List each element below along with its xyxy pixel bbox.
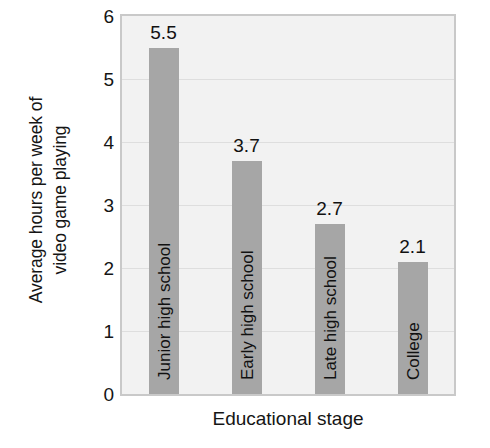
bar[interactable]: Early high school: [232, 161, 262, 394]
y-axis-title-line-2: video game playing: [48, 97, 72, 303]
bar[interactable]: College: [398, 262, 428, 394]
y-axis-title-text: Average hours per week of video game pla…: [24, 97, 72, 303]
y-axis-tick-label: 1: [90, 322, 114, 341]
y-axis-tick-label: 4: [90, 133, 114, 152]
bar-value-label: 2.1: [399, 237, 425, 256]
y-axis-tick-label: 0: [90, 385, 114, 404]
bar-category-label: Late high school: [321, 256, 338, 380]
bar-category-label: Early high school: [238, 251, 255, 380]
bar[interactable]: Junior high school: [149, 48, 179, 395]
bar-category-label: College: [404, 322, 421, 380]
y-axis-tick-labels: 6543210: [86, 0, 114, 448]
y-axis-tick-label: 2: [90, 259, 114, 278]
x-axis-title: Educational stage: [120, 408, 456, 430]
y-axis-title: Average hours per week of video game pla…: [0, 0, 96, 400]
plot-area: Junior high school5.5Early high school3.…: [120, 14, 456, 396]
bar-chart-figure: Average hours per week of video game pla…: [0, 0, 490, 448]
y-axis-tick-label: 3: [90, 196, 114, 215]
y-axis-tick-label: 5: [90, 70, 114, 89]
bar-value-label: 2.7: [316, 199, 342, 218]
bar-category-label: Junior high school: [155, 243, 172, 380]
y-axis-title-line-1: Average hours per week of: [24, 97, 48, 303]
bar-value-label: 5.5: [150, 23, 176, 42]
bar[interactable]: Late high school: [315, 224, 345, 394]
bar-value-label: 3.7: [233, 136, 259, 155]
y-axis-tick-label: 6: [90, 7, 114, 26]
